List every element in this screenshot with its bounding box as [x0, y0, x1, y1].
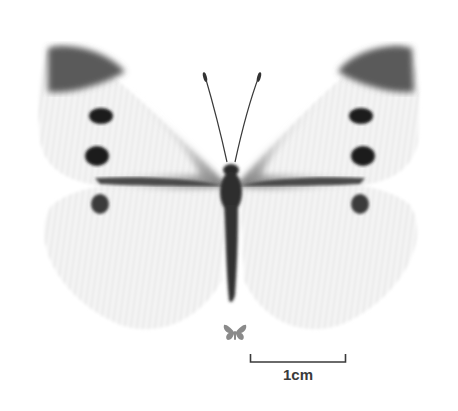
butterfly-icon [224, 325, 247, 340]
right-hindwing [240, 182, 417, 329]
scale-bar-label: 1cm [250, 366, 346, 383]
antennae [202, 72, 262, 162]
scale-bar [251, 354, 346, 362]
butterfly-specimen [0, 0, 458, 411]
right-forewing [236, 45, 419, 189]
left-forewing [39, 45, 228, 189]
left-hindwing [44, 182, 225, 329]
